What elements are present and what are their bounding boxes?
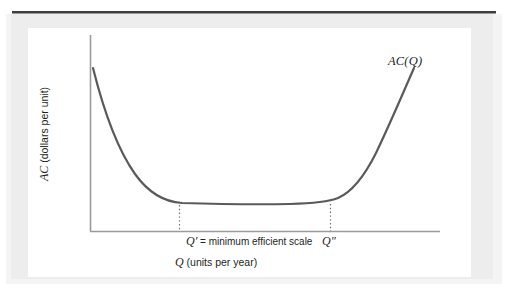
- figure-root: AC(Q) AC (dollars per unit) Q′ = minimum…: [0, 0, 508, 293]
- q-prime-text: = minimum efficient scale: [197, 236, 312, 247]
- x-axis-label: Q (units per year): [175, 256, 257, 268]
- plot-area: [0, 0, 508, 293]
- y-axis-symbol: AC: [37, 166, 51, 181]
- y-axis-units: (dollars per unit): [38, 87, 50, 166]
- y-axis-label: AC (dollars per unit): [38, 54, 50, 214]
- x-axis-symbol: Q: [175, 255, 184, 269]
- curve-label: AC(Q): [388, 55, 422, 68]
- q-prime-annotation: Q′ = minimum efficient scale: [186, 234, 312, 249]
- x-axis-units: (units per year): [184, 256, 258, 268]
- average-cost-curve: [93, 68, 414, 204]
- q-double-prime-annotation: Q″: [322, 234, 336, 249]
- q-prime-symbol: Q′: [186, 234, 197, 248]
- q-double-prime-symbol: Q″: [322, 234, 336, 248]
